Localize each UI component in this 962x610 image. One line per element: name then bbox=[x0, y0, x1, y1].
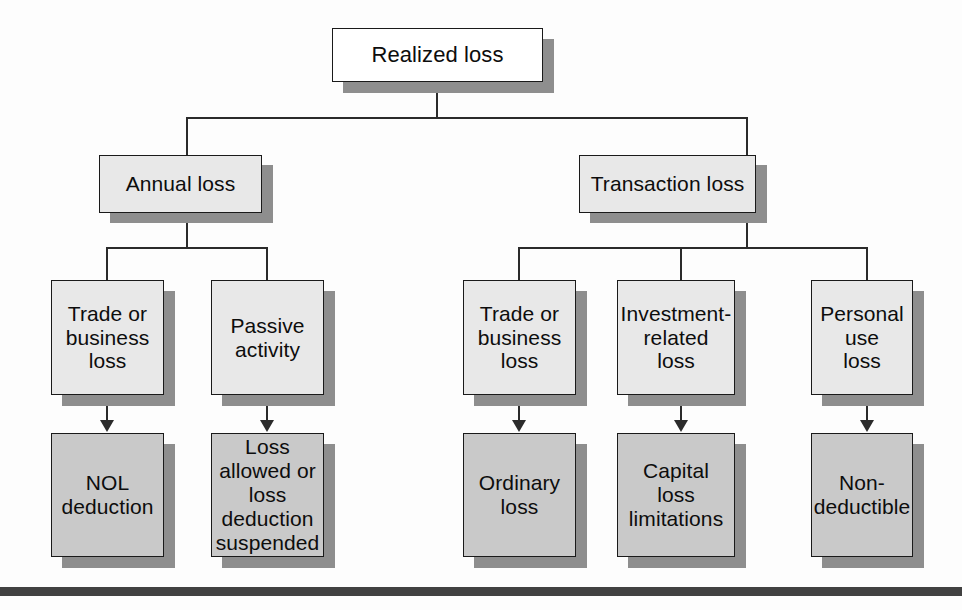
arrow-head-investment-related bbox=[674, 420, 688, 432]
arrow-head-personal-use bbox=[860, 420, 874, 432]
node-nol-deduction[interactable]: NOL deduction bbox=[51, 433, 164, 557]
arrow-head-passive-activity bbox=[260, 420, 274, 432]
connector-annual-left-drop bbox=[106, 247, 108, 281]
connector-transaction-drop-2 bbox=[680, 247, 682, 281]
node-annual-loss-label: Annual loss bbox=[122, 172, 240, 196]
connector-to-annual-loss bbox=[186, 117, 188, 155]
node-trade-business-loss-transaction-label: Trade or business loss bbox=[474, 302, 566, 374]
node-passive-activity-label: Passive activity bbox=[226, 314, 308, 362]
node-personal-use-loss-label: Personal use loss bbox=[816, 302, 908, 374]
node-investment-related-loss[interactable]: Investment- related loss bbox=[617, 280, 735, 395]
arrow-head-trade-business-left bbox=[100, 420, 114, 432]
node-realized-loss-label: Realized loss bbox=[367, 42, 507, 67]
node-loss-allowed-or-suspended[interactable]: Loss allowed or loss deduction suspended bbox=[211, 433, 324, 557]
node-capital-loss-limitations[interactable]: Capital loss limitations bbox=[617, 433, 735, 557]
connector-root-bar bbox=[186, 117, 748, 119]
connector-annual-right-drop bbox=[266, 247, 268, 281]
node-realized-loss[interactable]: Realized loss bbox=[332, 28, 543, 82]
diagram-canvas: Realized loss Annual loss Transaction lo… bbox=[0, 0, 962, 610]
bottom-divider-rule bbox=[0, 587, 962, 596]
node-ordinary-loss-label: Ordinary loss bbox=[475, 471, 564, 519]
connector-transaction-bar bbox=[518, 247, 866, 249]
node-trade-business-loss-transaction[interactable]: Trade or business loss bbox=[463, 280, 576, 395]
node-investment-related-loss-label: Investment- related loss bbox=[617, 302, 736, 374]
node-transaction-loss-label: Transaction loss bbox=[587, 172, 749, 196]
node-nol-deduction-label: NOL deduction bbox=[58, 471, 158, 519]
connector-to-transaction-loss bbox=[746, 117, 748, 155]
node-capital-loss-limitations-label: Capital loss limitations bbox=[625, 459, 727, 531]
arrow-head-trade-business-right bbox=[512, 420, 526, 432]
node-non-deductible-label: Non- deductible bbox=[810, 471, 915, 519]
node-loss-allowed-or-suspended-label: Loss allowed or loss deduction suspended bbox=[212, 435, 324, 555]
connector-transaction-drop-1 bbox=[518, 247, 520, 281]
node-trade-business-loss-annual[interactable]: Trade or business loss bbox=[51, 280, 164, 395]
node-ordinary-loss[interactable]: Ordinary loss bbox=[463, 433, 576, 557]
node-non-deductible[interactable]: Non- deductible bbox=[811, 433, 913, 557]
connector-transaction-drop-3 bbox=[866, 247, 868, 281]
node-personal-use-loss[interactable]: Personal use loss bbox=[811, 280, 913, 395]
node-passive-activity[interactable]: Passive activity bbox=[211, 280, 324, 395]
node-annual-loss[interactable]: Annual loss bbox=[99, 155, 262, 213]
node-trade-business-loss-annual-label: Trade or business loss bbox=[62, 302, 154, 374]
node-transaction-loss[interactable]: Transaction loss bbox=[579, 155, 756, 213]
connector-annual-bar bbox=[106, 247, 268, 249]
